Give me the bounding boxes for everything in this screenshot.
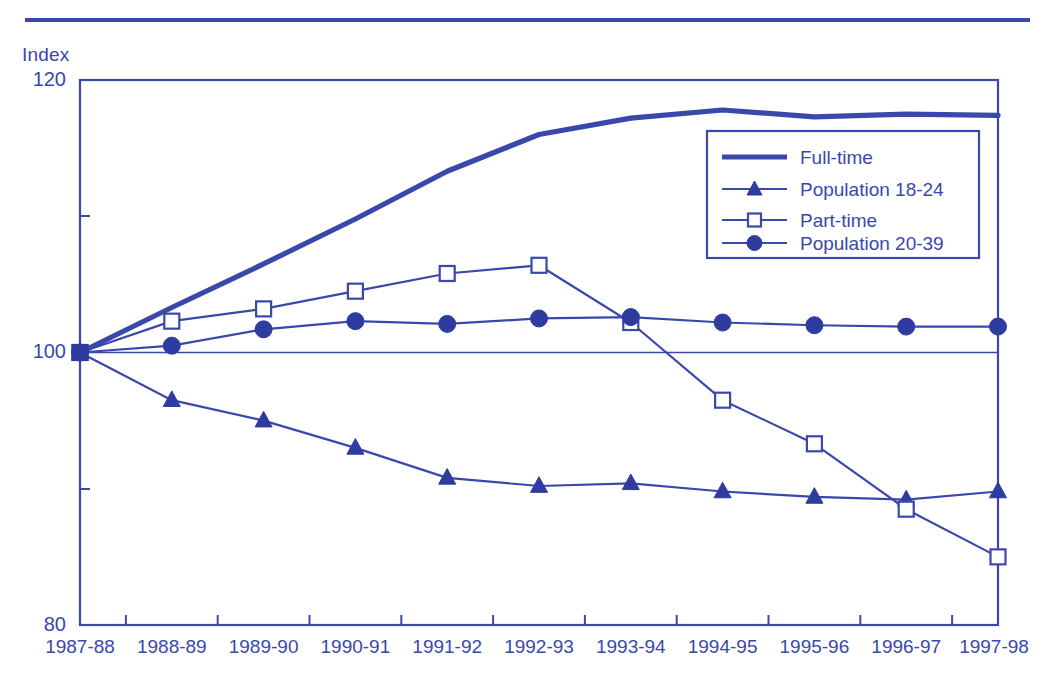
chart-svg: Full-time Population 18-24 Part-time Pop… [0,0,1054,700]
legend-circle-icon [747,236,762,251]
data-point-circle [898,318,915,335]
data-point-square [991,549,1006,564]
chart-legend: Full-time Population 18-24 Part-time Pop… [707,131,979,258]
data-point-circle [531,310,548,327]
data-point-square [715,393,730,408]
data-point-circle [990,318,1007,335]
data-point-circle [622,309,639,326]
data-point-square [899,502,914,517]
x-minor-ticks [126,615,952,625]
data-point-triangle [806,488,823,504]
data-point-circle [163,337,180,354]
data-point-circle [347,313,364,330]
data-point-square [256,301,271,316]
legend-label-full-time: Full-time [800,147,873,168]
data-point-square [440,266,455,281]
data-point-circle [439,315,456,332]
data-point-triangle [163,391,180,407]
legend-label-part-time: Part-time [800,210,877,231]
origin-marker [72,345,88,361]
series-part-time [73,258,1006,565]
data-point-circle [714,314,731,331]
data-point-circle [806,317,823,334]
data-point-square [532,258,547,273]
legend-label-population-18-24: Population 18-24 [800,179,944,200]
data-point-triangle [622,474,639,490]
legend-square-icon [748,214,761,227]
data-point-circle [255,321,272,338]
legend-label-population-20-39: Population 20-39 [800,233,944,254]
data-point-square [164,314,179,329]
data-point-square [807,436,822,451]
data-point-triangle [990,482,1007,498]
chart-figure: Index 120 100 80 1987-88 1988-89 1989-90… [0,0,1054,700]
data-point-square [348,284,363,299]
